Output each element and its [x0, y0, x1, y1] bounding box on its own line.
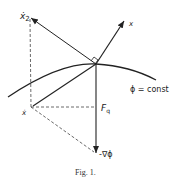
dashed-vertical	[30, 19, 31, 107]
x-dot-2-vector	[31, 18, 96, 64]
label-x: x	[128, 20, 134, 28]
x-dot-line	[33, 64, 96, 106]
figure-caption: Fig. 1.	[75, 168, 96, 177]
label-neg-grad-phi: -∇ϕ	[99, 150, 113, 159]
label-x-dot: ẋ	[21, 109, 27, 117]
x-vector	[96, 21, 124, 64]
label-x-dot-2: ẋ2	[19, 11, 30, 23]
dashed-diagonal	[31, 107, 94, 152]
figure-diagram: ẋ2 x ϕ = const ẋ Fq -∇ϕ Fig. 1.	[0, 0, 183, 184]
label-F-q: Fq	[101, 103, 110, 115]
label-phi-const: ϕ = const	[130, 85, 169, 94]
